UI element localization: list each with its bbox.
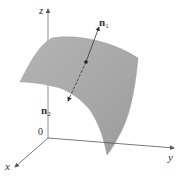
normal-n2-label: n2 — [41, 104, 51, 118]
x-axis — [15, 138, 48, 167]
z-axis-label: z — [38, 4, 44, 16]
origin-label: 0 — [38, 126, 43, 137]
surface — [20, 37, 138, 155]
x-axis-label: x — [4, 160, 10, 172]
tangent-point — [84, 60, 88, 64]
normal-n1-label: n1 — [99, 16, 109, 30]
surface-normal-diagram: z 0 x y n1 n2 — [0, 0, 182, 181]
y-axis-label: y — [167, 151, 173, 163]
